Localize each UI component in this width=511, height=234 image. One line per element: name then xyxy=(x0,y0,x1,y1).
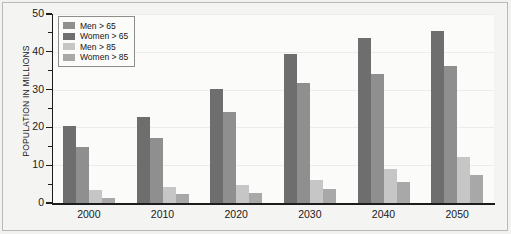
legend-item: Men > 85 xyxy=(63,42,128,52)
y-tick-minor xyxy=(48,70,52,71)
bar xyxy=(397,182,410,203)
bar xyxy=(323,189,336,203)
bar xyxy=(371,74,384,203)
bar xyxy=(358,38,371,203)
bar xyxy=(470,175,483,203)
legend-label: Men > 85 xyxy=(80,42,116,52)
legend-swatch xyxy=(63,43,75,50)
bar xyxy=(223,112,236,203)
legend-item: Women > 65 xyxy=(63,31,128,41)
bar xyxy=(176,194,189,203)
y-tick-label: 10 xyxy=(0,158,44,170)
y-tick-major xyxy=(46,13,52,14)
bar xyxy=(297,83,310,203)
legend-item: Women > 85 xyxy=(63,52,128,62)
bar xyxy=(249,193,262,203)
legend-swatch xyxy=(63,33,75,40)
x-tick-label: 2050 xyxy=(427,208,487,220)
y-tick-major xyxy=(46,202,52,203)
bar xyxy=(284,54,297,203)
y-tick-label: 20 xyxy=(0,120,44,132)
legend-item: Men > 65 xyxy=(63,21,128,31)
x-tick-label: 2010 xyxy=(133,208,193,220)
x-tick-label: 2030 xyxy=(280,208,340,220)
y-tick-label: 0 xyxy=(0,196,44,208)
bar xyxy=(76,147,89,203)
y-tick-major xyxy=(46,165,52,166)
bar xyxy=(89,190,102,203)
y-axis-line xyxy=(52,14,53,204)
chart-legend: Men > 65Women > 65Men > 85Women > 85 xyxy=(58,16,135,67)
y-tick-minor xyxy=(48,32,52,33)
bar xyxy=(310,180,323,203)
bar xyxy=(444,66,457,203)
x-tick-label: 2000 xyxy=(59,208,119,220)
bar xyxy=(457,157,470,203)
bar xyxy=(137,117,150,203)
bar xyxy=(102,198,115,203)
x-tick-label: 2020 xyxy=(206,208,266,220)
gridline xyxy=(52,90,494,91)
chart-figure: POPULATION IN MILLIONS 01020304050 Men >… xyxy=(0,0,511,234)
legend-swatch xyxy=(63,54,75,61)
bar xyxy=(236,185,249,203)
legend-label: Women > 65 xyxy=(80,31,128,41)
y-tick-major xyxy=(46,127,52,128)
y-tick-major xyxy=(46,51,52,52)
legend-label: Women > 85 xyxy=(80,52,128,62)
gridline xyxy=(52,165,494,166)
bar xyxy=(431,31,444,203)
gridline xyxy=(52,14,494,15)
x-axis-line xyxy=(52,203,495,205)
y-tick-minor xyxy=(48,184,52,185)
bar xyxy=(63,126,76,203)
bar xyxy=(150,138,163,203)
bar xyxy=(163,187,176,203)
bar xyxy=(384,169,397,203)
y-tick-major xyxy=(46,89,52,90)
legend-label: Men > 65 xyxy=(80,21,116,31)
x-tick-label: 2040 xyxy=(354,208,414,220)
y-tick-label: 40 xyxy=(0,45,44,57)
y-tick-minor xyxy=(48,108,52,109)
gridline xyxy=(52,127,494,128)
y-tick-label: 30 xyxy=(0,83,44,95)
y-tick-label: 50 xyxy=(0,7,44,19)
legend-swatch xyxy=(63,22,75,29)
y-tick-minor xyxy=(48,146,52,147)
bar xyxy=(210,89,223,203)
